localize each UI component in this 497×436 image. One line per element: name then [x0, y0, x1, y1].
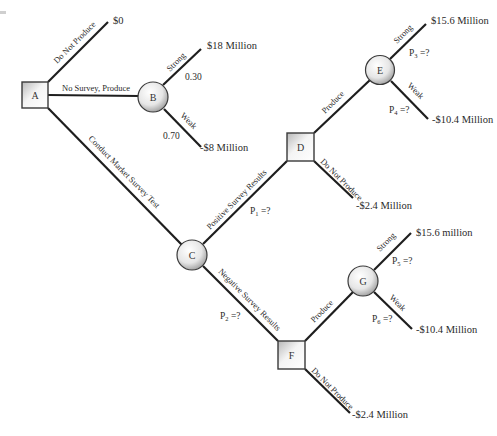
payoff-g-weak: -$10.4 Million — [416, 324, 478, 335]
node-label: D — [297, 142, 304, 153]
payoff-g-strong: $15.6 million — [416, 227, 473, 238]
branch-label-a-no-survey-produce: No Survey, Produce — [62, 83, 130, 93]
prob-p4: P4 =? — [389, 105, 410, 116]
node-b: B — [138, 82, 168, 112]
node-label: A — [31, 90, 39, 101]
node-label: C — [189, 250, 196, 261]
payoff-f-do-not-produce: -$2.4 Million — [352, 409, 409, 420]
node-e: E — [366, 56, 395, 85]
branch-label-f-produce: Produce — [308, 297, 335, 324]
node-g: G — [348, 266, 378, 296]
node-d: D — [287, 133, 314, 161]
branch-label-b-strong: Strong — [164, 50, 188, 74]
node-f: F — [278, 341, 305, 369]
prob-p3: P3 =? — [409, 48, 430, 59]
node-c: C — [177, 240, 207, 270]
branch-label-c-positive: Positive Survey Results — [204, 167, 268, 231]
payoff-b-weak: -$8 Million — [200, 142, 249, 153]
branch-label-g-weak: Weak — [388, 292, 409, 313]
payoff-b-strong: $18 Million — [207, 40, 258, 51]
branch-label-d-produce: Produce — [319, 88, 346, 115]
branch-label-a-conduct-survey: Conduct Market Survey Test — [87, 133, 163, 210]
decision-tree: A B C D E F G Do Not Produce No Survey, … — [0, 0, 497, 436]
prob-b-strong: 0.30 — [185, 72, 202, 82]
branch-label-e-strong: Strong — [391, 22, 415, 46]
payoff-a-do-not-produce: $0 — [113, 15, 124, 26]
node-label: G — [359, 276, 366, 287]
probabilities: 0.30 0.70 P1 =? P2 =? P3 =? P4 =? P5 =? … — [163, 48, 430, 325]
edge-c-positive — [203, 161, 287, 244]
edge-a-conduct-survey — [48, 108, 182, 245]
branch-label-d-do-not-produce: Do Not Produce — [319, 156, 365, 202]
payoff-d-do-not-produce: -$2.4 Million — [356, 200, 413, 211]
payoff-e-strong: $15.6 Million — [431, 15, 490, 26]
prob-p5: P5 =? — [392, 256, 413, 267]
prob-p6: P6 =? — [372, 314, 393, 325]
prob-b-weak: 0.70 — [163, 131, 180, 141]
branch-label-a-do-not-produce: Do Not Produce — [51, 19, 97, 65]
branch-label-f-do-not-produce: Do Not Produce — [310, 365, 356, 411]
edge-c-negative — [203, 266, 278, 341]
node-label: B — [150, 92, 157, 103]
branch-label-c-negative: Negative Survey Results — [217, 266, 284, 333]
prob-p2: P2 =? — [220, 311, 241, 322]
edge-a-no-survey-produce — [48, 95, 139, 96]
node-a: A — [22, 82, 48, 108]
node-label: E — [377, 65, 383, 76]
prob-p1: P1 =? — [250, 206, 271, 217]
node-label: F — [289, 350, 295, 361]
payoff-e-weak: -$10.4 Million — [432, 114, 494, 125]
